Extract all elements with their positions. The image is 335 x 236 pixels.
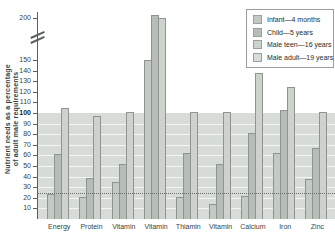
bar-male-teen xyxy=(126,112,134,219)
y-tick-label: 90 xyxy=(0,120,31,128)
legend-label: Male teen—16 years xyxy=(267,41,332,48)
y-tick-label: 30 xyxy=(0,183,31,191)
legend-item: Child—5 years xyxy=(253,27,333,38)
bar-male-teen xyxy=(255,73,263,219)
bar-male-teen xyxy=(287,87,295,220)
legend-swatch-icon xyxy=(253,15,262,24)
legend-item: Infant—4 months xyxy=(253,14,333,25)
bar-male-teen xyxy=(158,18,166,220)
y-tick-label: 50 xyxy=(0,162,31,170)
y-tick-label: 20 xyxy=(0,194,31,202)
legend-label: Male adult—19 years xyxy=(267,54,333,61)
bar-male-teen xyxy=(93,116,101,219)
y-tick-label: 110 xyxy=(0,98,31,106)
y-tick-label: 10 xyxy=(0,204,31,212)
bar-male-teen xyxy=(223,112,231,219)
legend-swatch-icon xyxy=(253,53,262,62)
x-category-label: Zinc xyxy=(299,223,335,231)
x-category-label: Thiamin xyxy=(170,223,206,231)
y-tick-label: 80 xyxy=(0,130,31,138)
y-tick-label: 70 xyxy=(0,141,31,149)
legend-swatch-icon xyxy=(253,28,262,37)
legend-item: Male adult—19 years xyxy=(253,52,333,63)
x-category-label: Vitamin xyxy=(106,223,142,231)
y-axis-line xyxy=(37,12,38,219)
legend-item: Male teen—16 years xyxy=(253,39,333,50)
reference-dotted-line xyxy=(37,193,335,194)
y-tick-label: 40 xyxy=(0,173,31,181)
bar-male-teen xyxy=(61,108,69,219)
x-category-label: Calcium xyxy=(235,223,271,231)
x-category-label: Vitamin xyxy=(203,223,239,231)
x-category-label: Protein xyxy=(73,223,109,231)
bar-male-teen xyxy=(319,112,327,219)
bar-male-teen xyxy=(190,112,198,219)
y-tick-label: 200 xyxy=(0,14,31,22)
legend: Infant—4 monthsChild—5 yearsMale teen—16… xyxy=(246,9,334,68)
x-category-label: Energy xyxy=(41,223,77,231)
y-tick-label: 60 xyxy=(0,151,31,159)
legend-label: Infant—4 months xyxy=(267,16,320,23)
y-tick-label: 120 xyxy=(0,88,31,96)
y-tick-label: 150 xyxy=(0,56,31,64)
y-tick-label: 100 xyxy=(0,109,31,117)
y-tick-label: 130 xyxy=(0,77,31,85)
legend-swatch-icon xyxy=(253,40,262,49)
x-category-label: Vitamin xyxy=(138,223,174,231)
nutrient-needs-bar-chart: Nutrient needs as a percentage of adult … xyxy=(0,0,335,236)
legend-label: Child—5 years xyxy=(267,29,313,36)
x-category-label: Iron xyxy=(267,223,303,231)
y-tick-label: 140 xyxy=(0,67,31,75)
